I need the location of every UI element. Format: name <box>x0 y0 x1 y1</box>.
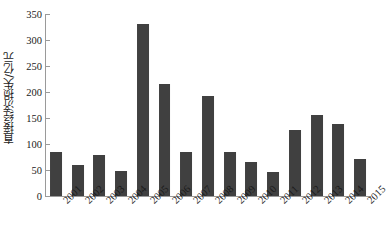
bar <box>50 152 62 196</box>
bar <box>202 96 214 196</box>
bar-slot <box>110 14 132 196</box>
bar-slot <box>306 14 328 196</box>
bar-slot <box>45 14 67 196</box>
bar-slot <box>262 14 284 196</box>
bar <box>159 84 171 196</box>
bar-slot <box>328 14 350 196</box>
bar-slot <box>132 14 154 196</box>
bar-slot <box>88 14 110 196</box>
bar <box>137 24 149 196</box>
plot-area <box>45 14 371 196</box>
x-axis-tick-labels: 2001200220032004200520062007200820092010… <box>45 196 371 228</box>
bar-slot <box>349 14 371 196</box>
bar-slot <box>197 14 219 196</box>
bar-slot <box>175 14 197 196</box>
bar-slot <box>241 14 263 196</box>
bar-slot <box>219 14 241 196</box>
bar-slot <box>154 14 176 196</box>
bar-slot <box>284 14 306 196</box>
bar-slot <box>67 14 89 196</box>
